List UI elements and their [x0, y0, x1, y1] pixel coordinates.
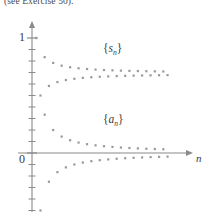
- data-point: [128, 70, 130, 72]
- data-point: [116, 158, 118, 160]
- data-point: [149, 74, 151, 76]
- data-point: [73, 78, 75, 80]
- data-point: [86, 143, 88, 145]
- x-axis-arrowhead: [186, 150, 193, 156]
- data-point: [166, 74, 168, 76]
- data-point: [73, 163, 75, 165]
- origin-label: 0: [19, 152, 25, 167]
- y-axis-arrowhead: [29, 21, 35, 28]
- data-point: [39, 94, 41, 96]
- series-label-partial-sums: {sn}: [103, 42, 122, 57]
- data-point: [48, 181, 50, 183]
- data-point: [44, 56, 46, 58]
- y-axis-tick-label-one: 1: [19, 30, 25, 45]
- figure-container: (see Exercise 50). 1 0 n {sn} {an}: [0, 0, 209, 221]
- data-point: [111, 69, 113, 71]
- data-point: [56, 171, 58, 173]
- data-point: [90, 160, 92, 162]
- scatter-plot: [0, 0, 209, 221]
- data-point: [82, 161, 84, 163]
- data-points-group: [35, 37, 168, 212]
- brace-close-an: }: [118, 113, 124, 125]
- data-point: [99, 76, 101, 78]
- brace-close-sn: }: [117, 42, 123, 54]
- data-point: [44, 114, 46, 116]
- data-point: [107, 75, 109, 77]
- data-point: [111, 146, 113, 148]
- data-point: [82, 77, 84, 79]
- data-point: [56, 81, 58, 83]
- data-point: [35, 37, 37, 39]
- data-point: [65, 79, 67, 81]
- data-point: [133, 157, 135, 159]
- data-point: [52, 129, 54, 131]
- data-point: [141, 156, 143, 158]
- data-point: [65, 166, 67, 168]
- data-point: [69, 139, 71, 141]
- data-point: [124, 75, 126, 77]
- data-point: [99, 159, 101, 161]
- data-point: [166, 156, 168, 158]
- data-point: [158, 156, 160, 158]
- data-point: [61, 65, 63, 67]
- data-point: [116, 75, 118, 77]
- data-point: [154, 148, 156, 150]
- data-point: [39, 209, 41, 211]
- data-point: [124, 157, 126, 159]
- data-point: [154, 70, 156, 72]
- series-label-terms: {an}: [103, 113, 124, 128]
- data-point: [77, 67, 79, 69]
- data-point: [128, 147, 130, 149]
- data-point: [86, 68, 88, 70]
- data-point: [94, 144, 96, 146]
- data-point: [94, 68, 96, 70]
- data-point: [103, 145, 105, 147]
- data-point: [145, 70, 147, 72]
- data-point: [48, 85, 50, 87]
- data-point: [162, 148, 164, 150]
- data-point: [90, 76, 92, 78]
- data-point: [107, 158, 109, 160]
- data-point: [120, 146, 122, 148]
- data-point: [158, 74, 160, 76]
- data-point: [141, 74, 143, 76]
- data-point: [145, 148, 147, 150]
- data-point: [133, 75, 135, 77]
- data-point: [69, 66, 71, 68]
- data-point: [77, 141, 79, 143]
- data-point: [137, 70, 139, 72]
- data-point: [61, 135, 63, 137]
- data-point: [52, 62, 54, 64]
- x-axis-label: n: [196, 152, 202, 164]
- data-point: [120, 70, 122, 72]
- data-point: [149, 156, 151, 158]
- data-point: [162, 70, 164, 72]
- data-point: [137, 147, 139, 149]
- data-point: [103, 69, 105, 71]
